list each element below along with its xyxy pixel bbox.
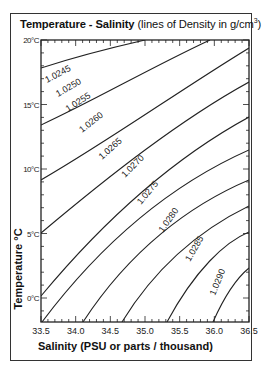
y-tick-label: 0°C (27, 294, 40, 303)
contour-line (42, 150, 249, 322)
y-tick-label: 20°C (23, 36, 40, 45)
contour-label: 1.0265 (97, 136, 124, 162)
x-axis-label: Salinity (PSU or parts / thousand) (38, 340, 213, 352)
y-tick-label: 10°C (23, 165, 40, 174)
x-tick-label: 36.0 (206, 326, 224, 336)
contour-line (41, 40, 145, 68)
contour-label: 1.0280 (156, 206, 180, 234)
x-tick-label: 33.5 (32, 326, 50, 336)
y-tick-label: 5°C (27, 230, 40, 239)
contour-label: 1.0290 (208, 267, 228, 296)
density-contours: 1.02451.02501.02551.02601.02651.02701.02… (41, 40, 249, 322)
contour-label: 1.0275 (135, 179, 160, 207)
x-tick-label: 35.0 (136, 326, 154, 336)
plot-area: 1.02451.02501.02551.02601.02651.02701.02… (0, 0, 263, 373)
y-axis-label: Temperature °C (12, 209, 24, 329)
contour-label: 1.0285 (183, 234, 205, 263)
x-tick-label: 34.0 (67, 326, 85, 336)
x-tick-label: 36.5 (240, 326, 258, 336)
contour-line (167, 232, 249, 322)
x-tick-label: 35.5 (171, 326, 189, 336)
x-tick-label: 34.5 (102, 326, 120, 336)
contour-label: 1.0260 (77, 110, 105, 135)
y-tick-label: 15°C (23, 101, 40, 110)
contour-line (122, 206, 249, 322)
tick-labels: 33.534.034.535.035.536.036.520°C15°C10°C… (23, 36, 258, 336)
